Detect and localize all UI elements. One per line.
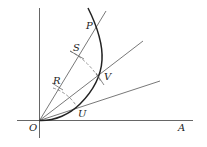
label-R: R (52, 75, 61, 86)
label-V: V (104, 71, 113, 82)
label-A: A (177, 122, 185, 133)
dashed-arc-RU (53, 88, 77, 107)
label-U: U (78, 108, 87, 119)
label-S: S (73, 42, 80, 53)
diagram-canvas: P S R V U O A (0, 0, 207, 147)
dashed-arc-SV (70, 51, 101, 82)
label-P: P (85, 20, 93, 31)
label-O: O (29, 122, 37, 133)
